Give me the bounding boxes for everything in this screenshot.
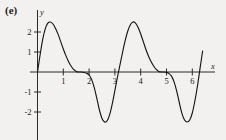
y-tick-label: 1: [27, 47, 31, 57]
y-axis-label: y: [39, 7, 44, 17]
y-tick-label: -2: [24, 107, 31, 117]
y-tick-label: -1: [24, 87, 31, 97]
function-graph: 12345621-1-2 x y: [0, 0, 226, 140]
x-axis-label: x: [210, 61, 215, 71]
x-tick-label: 6: [190, 76, 194, 86]
y-tick-label: 2: [27, 27, 31, 37]
x-tick-label: 4: [139, 76, 144, 86]
x-tick-label: 1: [61, 76, 65, 86]
x-tick-label: 5: [164, 76, 168, 86]
axes-group: [30, 10, 215, 140]
